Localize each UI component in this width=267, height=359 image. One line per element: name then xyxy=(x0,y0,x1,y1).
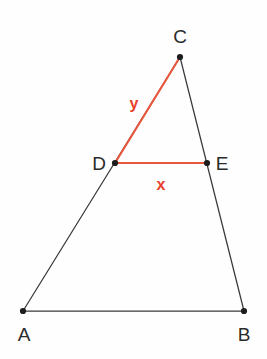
vertex-point-b xyxy=(241,308,247,314)
right-side-segment-CB xyxy=(180,57,244,311)
vertex-label-b: B xyxy=(238,324,251,345)
triangle-figure: A B C D E y x xyxy=(0,0,267,359)
vertex-label-d: D xyxy=(92,153,106,174)
measure-label-y: y xyxy=(130,95,139,112)
vertex-point-a xyxy=(20,308,26,314)
vertex-label-e: E xyxy=(216,153,229,174)
vertex-label-a: A xyxy=(18,324,31,345)
vertex-point-e xyxy=(204,160,210,166)
geometry-diagram: A B C D E y x xyxy=(0,0,267,359)
vertex-label-c: C xyxy=(173,26,187,47)
accent-segment-DC xyxy=(115,57,180,163)
measure-label-x: x xyxy=(157,176,166,193)
vertex-point-d xyxy=(112,160,118,166)
vertex-point-c xyxy=(177,54,183,60)
